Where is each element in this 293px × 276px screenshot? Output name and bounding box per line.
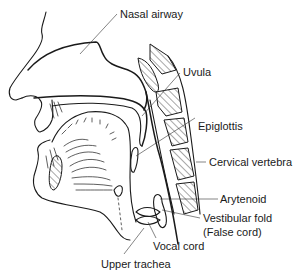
hyoid-dashed [118,198,122,230]
vestibular-fold-shape [136,208,160,217]
tongue-fibers [62,118,116,190]
epiglottis-shape [131,148,138,173]
label-nasal-airway: Nasal airway [120,8,183,20]
tongue [52,112,136,222]
soft-palate [52,103,142,146]
label-upper-trachea: Upper trachea [101,258,172,270]
vertebra-c4 [170,148,194,180]
vertebra-c1 [150,44,176,74]
vertebra-c5 [176,182,198,214]
label-epiglottis: Epiglottis [198,120,243,132]
lower-incisor [49,156,62,190]
leader-nasal-airway [80,14,117,54]
vertebra-c2 [156,88,182,116]
pharyngeal-wall [146,92,178,244]
airway-anatomy-diagram: Nasal airway Uvula Epiglottis Cervical v… [0,0,293,276]
face-profile [9,12,46,100]
label-vestibular-fold: Vestibular fold [203,212,272,224]
label-false-cord: (False cord) [203,226,262,238]
label-cervical-vertebra: Cervical vertebra [209,156,293,168]
pharyngeal-wall-inner [150,100,174,214]
hyoid [114,186,122,197]
label-uvula: Uvula [183,66,212,78]
upper-lip [22,96,53,132]
vocal-cord-shape [136,216,160,224]
label-vocal-cord: Vocal cord [153,240,204,252]
leader-upper-trachea [124,228,144,254]
vertebra-c3 [164,118,188,146]
label-arytenoid: Arytenoid [220,193,266,205]
